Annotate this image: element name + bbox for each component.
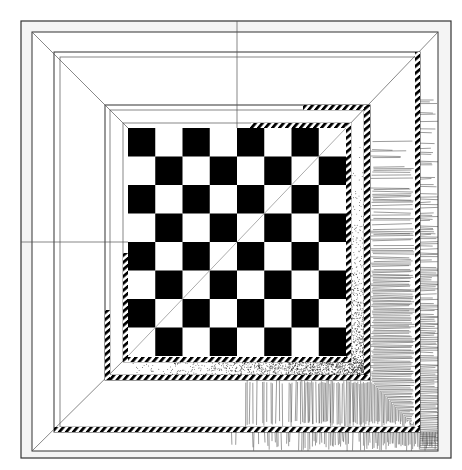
stipple-dot: [356, 285, 357, 286]
stipple-dot: [361, 325, 362, 326]
stipple-dot: [345, 370, 346, 371]
stipple-dot: [273, 363, 274, 364]
board-square-black: [292, 185, 319, 214]
stipple-dot: [357, 309, 358, 310]
stipple-dot: [355, 263, 356, 264]
board-square-black: [319, 271, 346, 300]
stipple-dot: [188, 372, 189, 373]
stipple-dot: [196, 373, 197, 374]
stipple-dot: [360, 339, 361, 340]
stipple-dot: [278, 367, 279, 368]
stipple-dot: [362, 239, 363, 240]
stipple-dot: [352, 367, 353, 368]
stipple-dot: [292, 366, 293, 367]
stipple-dot: [361, 273, 362, 274]
stipple-dot: [360, 240, 361, 241]
stipple-dot: [358, 355, 359, 356]
stipple-dot: [318, 363, 319, 364]
stipple-dot: [320, 363, 321, 364]
stipple-dot: [319, 373, 320, 374]
stipple-dot: [362, 310, 363, 311]
stipple-dot: [354, 358, 355, 359]
stipple-dot: [359, 180, 360, 181]
board-square-black: [155, 271, 182, 300]
stipple-dot: [360, 283, 361, 284]
stipple-dot: [326, 371, 327, 372]
stipple-dot: [172, 369, 173, 370]
stipple-dot: [354, 366, 355, 367]
stipple-dot: [351, 366, 352, 367]
stipple-dot: [359, 293, 360, 294]
stipple-dot: [359, 352, 360, 353]
stipple-dot: [356, 353, 357, 354]
stipple-dot: [361, 216, 362, 217]
board-square-black: [183, 299, 210, 328]
stipple-dot: [354, 359, 355, 360]
stipple-dot: [361, 283, 362, 284]
stipple-dot: [278, 365, 279, 366]
stipple-dot: [217, 369, 218, 370]
stipple-dot: [359, 157, 360, 158]
stipple-dot: [289, 368, 290, 369]
stipple-dot: [352, 309, 353, 310]
stipple-dot: [361, 372, 362, 373]
stipple-dot: [289, 363, 290, 364]
stipple-dot: [255, 367, 256, 368]
stipple-dot: [207, 368, 208, 369]
stipple-dot: [182, 370, 183, 371]
board-square-black: [237, 185, 264, 214]
stipple-dot: [361, 367, 362, 368]
stipple-dot: [329, 370, 330, 371]
stipple-dot: [214, 370, 215, 371]
stipple-dot: [259, 370, 260, 371]
middle-right-stripe: [415, 52, 420, 432]
stipple-dot: [302, 371, 303, 372]
stipple-dot: [250, 367, 251, 368]
stipple-dot: [357, 225, 358, 226]
stipple-dot: [215, 373, 216, 374]
stipple-dot: [348, 371, 349, 372]
stipple-dot: [224, 367, 225, 368]
stipple-dot: [277, 362, 278, 363]
stipple-dot: [353, 364, 354, 365]
stipple-dot: [357, 339, 358, 340]
stipple-dot: [312, 365, 313, 366]
stipple-dot: [353, 197, 354, 198]
stipple-dot: [281, 372, 282, 373]
stipple-dot: [352, 318, 353, 319]
stipple-dot: [293, 368, 294, 369]
stipple-dot: [327, 374, 328, 375]
stipple-dot: [362, 360, 363, 361]
stipple-dot: [324, 368, 325, 369]
stipple-dot: [362, 231, 363, 232]
stipple-dot: [306, 373, 307, 374]
stipple-dot: [300, 369, 301, 370]
stipple-dot: [310, 367, 311, 368]
stipple-dot: [332, 371, 333, 372]
board-square-black: [264, 157, 291, 186]
stipple-dot: [363, 336, 364, 337]
stipple-dot: [258, 364, 259, 365]
stipple-dot: [353, 341, 354, 342]
stipple-dot: [275, 367, 276, 368]
stipple-dot: [337, 363, 338, 364]
stipple-dot: [358, 349, 359, 350]
stipple-dot: [354, 225, 355, 226]
stipple-dot: [241, 366, 242, 367]
stipple-dot: [248, 365, 249, 366]
stipple-dot: [356, 247, 357, 248]
stipple-dot: [276, 365, 277, 366]
inner-right-stripe: [346, 123, 351, 362]
stipple-dot: [328, 366, 329, 367]
stipple-dot: [363, 354, 364, 355]
stipple-dot: [312, 366, 313, 367]
stipple-dot: [251, 373, 252, 374]
stipple-dot: [229, 368, 230, 369]
stipple-dot: [301, 371, 302, 372]
stipple-dot: [352, 351, 353, 352]
stipple-dot: [352, 327, 353, 328]
stipple-dot: [317, 374, 318, 375]
stipple-dot: [244, 370, 245, 371]
stipple-dot: [363, 281, 364, 282]
stipple-dot: [221, 370, 222, 371]
